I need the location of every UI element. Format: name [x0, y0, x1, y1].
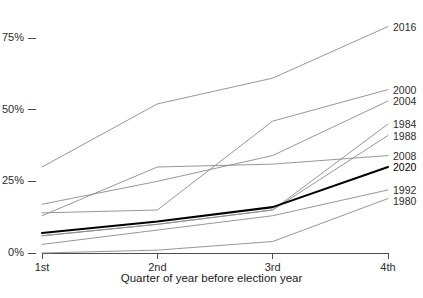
y-axis-tick-label: 25%: [0, 174, 24, 186]
x-axis-title: Quarter of year before election year: [0, 272, 423, 284]
y-axis-tick-label: 50%: [0, 103, 24, 115]
series-label-1992: 1992: [393, 184, 416, 196]
axis-lines: [28, 38, 388, 259]
series-label-1980: 1980: [393, 195, 416, 207]
line-chart: 0%25%50%75% 1st2nd3rd4th 201620002004198…: [0, 0, 423, 298]
series-label-1988: 1988: [393, 130, 416, 142]
series-label-2020: 2020: [393, 161, 416, 173]
y-axis-tick-label: 75%: [0, 31, 24, 43]
series-label-2004: 2004: [393, 95, 416, 107]
series-label-2016: 2016: [393, 21, 416, 33]
series-label-2008: 2008: [393, 150, 416, 162]
series-label-2000: 2000: [393, 84, 416, 96]
series-label-1984: 1984: [393, 118, 416, 130]
series-lines: [42, 27, 388, 253]
y-axis-tick-label: 0%: [0, 246, 24, 258]
chart-plot-area: [0, 0, 423, 298]
